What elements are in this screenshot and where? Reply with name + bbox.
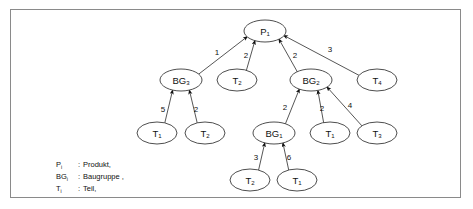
node-T2a: T2 <box>217 69 257 91</box>
legend-separator-T: : <box>78 184 80 193</box>
node-BG1: BG1 <box>253 122 295 144</box>
edge-T3-to-BG2 <box>327 87 363 127</box>
edge-T1a-to-BG3 <box>165 90 173 124</box>
edge-weight-T1b-to-BG2: 2 <box>320 104 325 113</box>
edge-weight-BG3-to-P1: 1 <box>215 48 220 57</box>
edge-weight-T2b-to-BG3: 2 <box>194 105 199 114</box>
legend-separator-P: : <box>78 160 80 169</box>
edge-weight-BG1-to-BG2: 2 <box>283 103 288 112</box>
edge-BG1-to-BG2 <box>285 89 300 125</box>
edges-layer <box>165 35 363 171</box>
edge-weight-T2a-to-P1: 2 <box>244 51 249 60</box>
legend-symbol-P: Pi <box>56 160 62 170</box>
gozinto-graph: 12235222436 P1BG3T2BG2T4T1T2BG1T1T3T2T1 … <box>0 0 473 209</box>
nodes-layer: P1BG3T2BG2T4T1T2BG1T1T3T2T1 <box>137 20 397 191</box>
figure-container: 12235222436 P1BG3T2BG2T4T1T2BG1T1T3T2T1 … <box>0 0 473 209</box>
edge-weight-T3-to-BG2: 4 <box>348 101 353 110</box>
legend-symbol-BG: BGi <box>56 172 68 182</box>
edge-T2c-to-BG1 <box>258 142 265 171</box>
edge-weight-T1a-to-BG3: 5 <box>161 105 166 114</box>
node-T2b: T2 <box>185 122 225 144</box>
node-BG3: BG3 <box>160 69 202 91</box>
node-T3: T3 <box>357 122 397 144</box>
legend-definition-T: Teil, <box>83 184 96 193</box>
node-T2c: T2 <box>230 169 270 191</box>
node-T4: T4 <box>357 69 397 91</box>
node-T1a: T1 <box>137 122 177 144</box>
node-T1b: T1 <box>310 122 350 144</box>
edge-weight-T2c-to-BG1: 3 <box>254 153 259 162</box>
legend-separator-BG: : <box>78 172 80 181</box>
legend-definition-BG: Baugruppe , <box>83 172 124 181</box>
legend: Pi:Produkt,BGi:Baugruppe ,Ti:Teil, <box>56 160 124 194</box>
legend-symbol-T: Ti <box>56 184 62 194</box>
node-BG2: BG2 <box>290 69 332 91</box>
edge-weights-layer: 12235222436 <box>161 45 353 162</box>
edge-weight-T1c-to-BG1: 6 <box>287 153 292 162</box>
edge-weight-BG2-to-P1: 2 <box>293 51 298 60</box>
node-P1: P1 <box>244 20 286 42</box>
legend-definition-P: Produkt, <box>83 160 111 169</box>
node-T1c: T1 <box>277 169 317 191</box>
edge-weight-T4-to-P1: 3 <box>328 45 333 54</box>
